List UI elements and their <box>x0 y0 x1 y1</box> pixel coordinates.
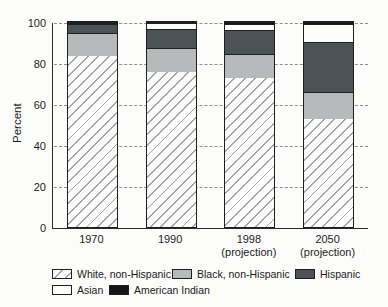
legend-swatch-hispanic <box>295 269 315 279</box>
y-tick-label-100: 100 <box>0 16 46 30</box>
y-tick-label-0: 0 <box>0 221 46 235</box>
y-tick-label-20: 20 <box>0 180 46 194</box>
segment-hispanic-1970 <box>68 24 117 33</box>
bar-1990 <box>146 21 197 228</box>
legend-item-american-indian: American Indian <box>109 284 210 296</box>
segment-white-non-hispanic-1970 <box>68 56 117 227</box>
legend-item-black-non-hispanic: Black, non-Hispanic <box>172 268 290 280</box>
legend-label-black-non-hispanic: Black, non-Hispanic <box>197 268 290 280</box>
legend-swatch-asian <box>52 285 72 295</box>
x-label-2050: 2050 (projection) <box>288 233 367 259</box>
segment-white-non-hispanic-2050 <box>304 119 353 227</box>
legend-swatch-american-indian <box>109 285 129 295</box>
x-label-1990: 1990 <box>131 233 210 259</box>
segment-hispanic-1998 <box>225 30 274 53</box>
x-axis-tick-labels: 197019901998 (projection)2050 (projectio… <box>52 233 367 259</box>
legend-label-white-non-hispanic: White, non-Hispanic <box>77 268 171 280</box>
segment-white-non-hispanic-1998 <box>225 78 274 227</box>
legend-item-asian: Asian <box>52 284 103 296</box>
bar-1970 <box>67 21 118 228</box>
plot-area <box>52 23 368 229</box>
segment-hispanic-1990 <box>147 29 196 47</box>
legend: White, non-HispanicBlack, non-HispanicHi… <box>52 268 382 302</box>
x-label-1998: 1998 (projection) <box>210 233 289 259</box>
segment-asian-1998 <box>225 24 274 31</box>
stacked-bar-chart-figure: Percent 020406080100 197019901998 (proje… <box>0 0 388 307</box>
legend-item-hispanic: Hispanic <box>295 268 360 280</box>
legend-swatch-white-non-hispanic <box>52 269 72 279</box>
y-tick-label-40: 40 <box>0 139 46 153</box>
bars-group <box>53 23 368 228</box>
legend-label-asian: Asian <box>77 284 103 296</box>
segment-black-non-hispanic-1990 <box>147 48 196 72</box>
legend-label-hispanic: Hispanic <box>320 268 360 280</box>
y-tick-label-60: 60 <box>0 98 46 112</box>
x-label-1970: 1970 <box>52 233 131 259</box>
bar-1998 <box>224 21 275 228</box>
bar-2050 <box>303 21 354 228</box>
segment-asian-2050 <box>304 24 353 42</box>
segment-black-non-hispanic-1970 <box>68 33 117 55</box>
legend-swatch-black-non-hispanic <box>172 269 192 279</box>
legend-label-american-indian: American Indian <box>134 284 210 296</box>
y-tick-label-80: 80 <box>0 57 46 71</box>
segment-black-non-hispanic-2050 <box>304 92 353 119</box>
segment-black-non-hispanic-1998 <box>225 54 274 79</box>
legend-item-white-non-hispanic: White, non-Hispanic <box>52 268 171 280</box>
segment-white-non-hispanic-1990 <box>147 72 196 227</box>
segment-hispanic-2050 <box>304 42 353 92</box>
